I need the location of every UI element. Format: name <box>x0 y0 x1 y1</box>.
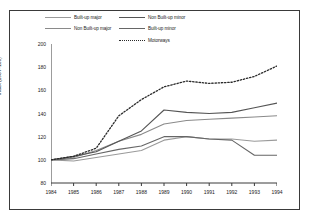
series-line <box>51 103 277 160</box>
y-axis-tick-label: 80 <box>30 180 46 186</box>
y-axis-tick-label: 140 <box>30 111 46 117</box>
legend-label-built-up-minor: Built-up minor <box>148 26 176 32</box>
y-axis-tick-label: 160 <box>30 87 46 93</box>
legend-item-built-up-major: Built-up major <box>45 13 102 22</box>
x-axis-tick-label: 1984 <box>40 189 62 195</box>
legend-swatch-non-built-up-major <box>45 28 71 29</box>
legend-swatch-built-up-major <box>45 17 71 18</box>
x-axis-tick-label: 1988 <box>130 189 152 195</box>
x-axis-tick-label: 1994 <box>266 189 288 195</box>
y-axis-label: Index (1984=100) <box>0 57 2 95</box>
series-line <box>51 137 277 161</box>
legend-item-non-built-up-major: Non Built-up major <box>45 24 111 33</box>
y-axis-tick-label: 100 <box>30 157 46 163</box>
x-axis-tick-label: 1991 <box>198 189 220 195</box>
x-axis-tick-label: 1987 <box>108 189 130 195</box>
x-axis-tick-label: 1992 <box>221 189 243 195</box>
chart-figure: Built-up major Non Built-up major Non Bu… <box>0 0 309 220</box>
legend-swatch-built-up-minor <box>119 28 145 29</box>
legend-label-built-up-major: Built-up major <box>74 15 102 21</box>
x-axis-tick-label: 1993 <box>243 189 265 195</box>
legend-label-non-built-up-minor: Non Built-up minor <box>148 15 185 21</box>
series-line <box>51 116 277 160</box>
x-axis-tick-label: 1990 <box>176 189 198 195</box>
legend-item-built-up-minor: Built-up minor <box>119 24 176 33</box>
series-line <box>51 66 277 160</box>
chart-plot-area <box>51 38 277 189</box>
legend-item-non-built-up-minor: Non Built-up minor <box>119 13 185 22</box>
chart-svg <box>51 38 277 189</box>
legend-label-non-built-up-major: Non Built-up major <box>74 26 111 32</box>
y-axis-tick-label: 200 <box>30 41 46 47</box>
x-axis-tick-label: 1989 <box>153 189 175 195</box>
y-axis-tick-label: 180 <box>30 64 46 70</box>
x-axis-tick-label: 1986 <box>85 189 107 195</box>
legend-swatch-non-built-up-minor <box>119 17 145 18</box>
x-axis-tick-label: 1985 <box>63 189 85 195</box>
y-axis-tick-label: 120 <box>30 134 46 140</box>
